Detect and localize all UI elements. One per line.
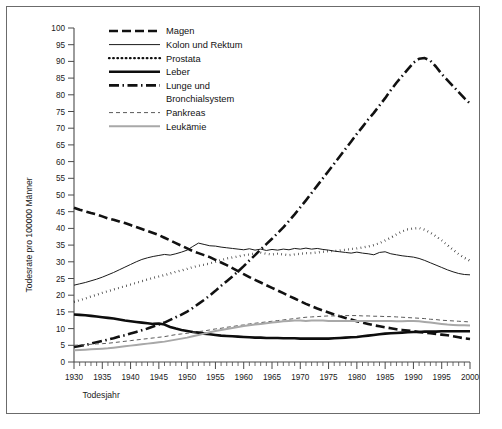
x-tick-label: 1955 bbox=[206, 373, 225, 382]
x-tick-label: 1995 bbox=[433, 373, 452, 382]
y-tick-label: 55 bbox=[56, 174, 66, 183]
y-tick-label: 40 bbox=[56, 224, 66, 233]
x-tick-label: 1985 bbox=[376, 373, 395, 382]
y-tick-label: 100 bbox=[51, 24, 65, 33]
chart-container: 0510152025303540455055606570758085909510… bbox=[0, 0, 502, 429]
x-tick-label: 2000 bbox=[461, 373, 480, 382]
x-tick-label: 1930 bbox=[65, 373, 84, 382]
series-line-4 bbox=[74, 58, 470, 347]
series-line-6 bbox=[74, 321, 470, 351]
y-axis-title: Todesrate pro 100000 Männer bbox=[24, 177, 34, 292]
y-tick-label: 0 bbox=[60, 358, 65, 367]
y-tick-label: 95 bbox=[56, 41, 66, 50]
x-tick-label: 1950 bbox=[178, 373, 197, 382]
x-tick-label: 1940 bbox=[121, 373, 140, 382]
x-tick-label: 1980 bbox=[348, 373, 367, 382]
y-tick-label: 90 bbox=[56, 57, 66, 66]
y-tick-label: 50 bbox=[56, 191, 66, 200]
x-axis-title: Todesjahr bbox=[82, 390, 119, 400]
series-line-0 bbox=[74, 208, 470, 339]
legend: MagenKolon und RektumProstataLeberLunge … bbox=[109, 26, 243, 131]
legend-label-2: Prostata bbox=[166, 54, 201, 64]
legend-label-0: Magen bbox=[166, 26, 194, 36]
y-axis: 0510152025303540455055606570758085909510… bbox=[51, 24, 74, 367]
y-tick-label: 5 bbox=[60, 341, 65, 350]
y-tick-label: 75 bbox=[56, 108, 66, 117]
y-tick-label: 85 bbox=[56, 74, 66, 83]
y-tick-label: 15 bbox=[56, 308, 66, 317]
y-tick-label: 65 bbox=[56, 141, 66, 150]
cancer-mortality-line-chart: 0510152025303540455055606570758085909510… bbox=[0, 0, 502, 429]
y-tick-label: 25 bbox=[56, 275, 66, 284]
legend-label-1: Kolon und Rektum bbox=[166, 40, 243, 50]
x-tick-label: 1990 bbox=[404, 373, 423, 382]
legend-label-5: Bronchialsystem bbox=[166, 94, 234, 104]
y-tick-label: 30 bbox=[56, 258, 66, 267]
y-tick-label: 70 bbox=[56, 124, 66, 133]
x-tick-label: 1975 bbox=[319, 373, 338, 382]
x-tick-label: 1935 bbox=[93, 373, 112, 382]
series-group bbox=[74, 58, 470, 350]
y-tick-label: 60 bbox=[56, 158, 66, 167]
y-tick-label: 20 bbox=[56, 291, 66, 300]
series-line-1 bbox=[74, 243, 470, 285]
x-axis: 1930193519401945195019551960196519701975… bbox=[65, 362, 480, 382]
legend-label-6: Pankreas bbox=[166, 108, 206, 118]
y-tick-label: 80 bbox=[56, 91, 66, 100]
legend-label-3: Leber bbox=[166, 67, 190, 77]
x-tick-label: 1970 bbox=[291, 373, 310, 382]
legend-label-4: Lunge und bbox=[166, 81, 210, 91]
y-tick-label: 45 bbox=[56, 208, 66, 217]
legend-label-7: Leukämie bbox=[166, 122, 206, 132]
y-tick-label: 35 bbox=[56, 241, 66, 250]
x-tick-label: 1945 bbox=[150, 373, 169, 382]
x-tick-label: 1960 bbox=[235, 373, 254, 382]
y-tick-label: 10 bbox=[56, 325, 66, 334]
x-tick-label: 1965 bbox=[263, 373, 282, 382]
